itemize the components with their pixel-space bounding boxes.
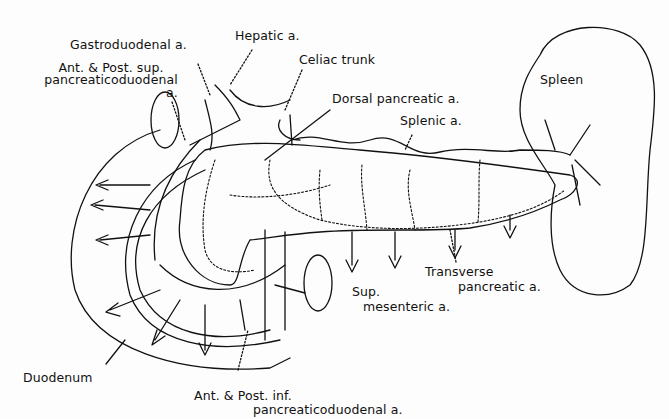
label-ant-post-inf-line2: pancreaticoduodenal a.: [253, 403, 403, 416]
splenic-artery: [292, 137, 570, 155]
label-transverse-line1: Transverse: [425, 265, 493, 278]
pancreas-outline: [179, 143, 577, 285]
label-spleen: Spleen: [540, 73, 583, 86]
label-transverse-line2: pancreatic a.: [458, 280, 541, 293]
duodenal-arrows: [91, 180, 245, 355]
label-duodenum: Duodenum: [23, 371, 93, 384]
gastroduodenal-artery: [205, 100, 212, 150]
dorsal-pancreatic-artery: [265, 110, 330, 160]
sup-vessel-ring: [151, 92, 179, 148]
label-dorsal-pancreatic-a: Dorsal pancreatic a.: [332, 92, 460, 105]
pancreas-artery-diagram: Gastroduodenal a. Hepatic a. Celiac trun…: [0, 0, 669, 419]
label-sup-mesenteric-line1: Sup.: [352, 285, 380, 298]
label-ant-post-inf-line1: Ant. & Post. inf.: [194, 389, 292, 402]
hepatic-artery: [190, 85, 290, 145]
duodenum-inner: [136, 170, 270, 337]
spleen-outline: [520, 27, 654, 295]
label-hepatic-a: Hepatic a.: [235, 29, 300, 42]
arcade-inf: [160, 265, 285, 289]
label-sup-mesenteric-line2: mesenteric a.: [363, 300, 450, 313]
label-celiac-trunk: Celiac trunk: [299, 53, 375, 66]
sma-vessel-ring: [304, 255, 332, 311]
label-gastroduodenal-a: Gastroduodenal a.: [70, 38, 187, 51]
label-splenic-a: Splenic a.: [400, 114, 462, 127]
label-ant-post-sup-line3: a.: [166, 86, 178, 99]
arcade-sup: [154, 140, 200, 260]
